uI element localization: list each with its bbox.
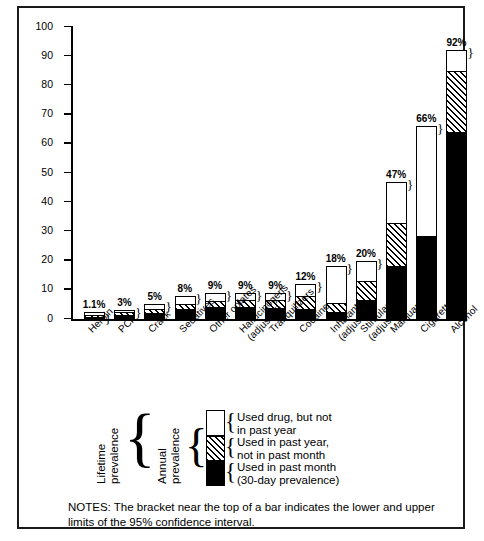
legend-item-label-1: Used in past year, not in past month [237,436,329,462]
legend-brace-3: { [225,460,236,483]
y-tick-label: 80 [27,79,53,90]
y-tick: 0 [64,318,73,320]
y-tick-label: 20 [27,254,53,265]
y-tick: 100 [64,26,73,28]
y-tick-label: 10 [27,283,53,294]
confidence-interval-bracket: } [407,178,413,191]
legend-swatch-black [206,461,225,486]
plot-area: 0102030405060708090100 1.1%}3%}5%}8%}9%}… [71,27,467,321]
legend-swatch-hatched [206,436,225,461]
chart-frame: Percentage, Class of 1988 01020304050607… [17,6,465,529]
y-tick-label: 0 [27,313,53,324]
y-tick-label: 100 [27,21,53,32]
legend-item-label-2: Used in past month (30-day prevalence) [237,461,339,487]
notes-text: NOTES: The bracket near the top of a bar… [68,500,463,530]
bar-value-label: 3% [117,298,131,308]
confidence-interval-bracket: } [347,262,353,275]
y-tick-label: 40 [27,196,53,207]
y-tick: 40 [64,201,73,203]
bar-segment-black [446,132,467,319]
bar-value-label: 66% [416,114,436,124]
y-tick: 20 [64,259,73,261]
bar-value-label: 18% [326,254,346,264]
confidence-interval-bracket: } [226,289,232,302]
y-tick: 50 [64,172,73,174]
y-tick: 60 [64,142,73,144]
bar-value-label: 5% [147,292,161,302]
y-tick: 80 [64,84,73,86]
y-tick: 90 [64,55,73,57]
y-tick: 10 [64,288,73,290]
bar-value-label: 47% [386,170,406,180]
confidence-interval-bracket: } [467,46,473,59]
y-tick-label: 30 [27,225,53,236]
confidence-interval-bracket: } [316,280,322,293]
y-tick: 30 [64,230,73,232]
legend-swatch-stack [206,410,225,486]
bar[interactable]: 66%} [416,126,437,319]
legend-brace-1: { [225,410,236,433]
bar-segment-white [386,182,407,223]
bar-segment-white [446,50,467,70]
lifetime-prevalence-label: Lifetime prevalence [95,406,120,484]
y-tick-label: 70 [27,108,53,119]
y-tick-label: 90 [27,50,53,61]
y-tick-label: 50 [27,167,53,178]
bar-segment-hatched [446,71,467,132]
bar-value-label: 1.1% [83,300,106,310]
bar-segment-white [326,266,347,303]
bar-segment-white [356,261,377,281]
bar-segment-white [175,296,196,304]
bar-value-label: 12% [295,272,315,282]
bar-value-label: 20% [356,249,376,259]
legend-swatch-white [206,410,225,436]
bar[interactable]: 92%} [446,50,467,319]
bar-value-label: 92% [446,38,466,48]
bar-segment-white [416,126,437,236]
bar-value-label: 8% [178,284,192,294]
annual-brace: { [185,422,208,469]
lifetime-brace: { [124,404,156,470]
y-axis-line [71,27,73,321]
y-tick: 70 [64,113,73,115]
legend-item-label-0: Used drug, but not in past year [237,411,332,437]
confidence-interval-bracket: } [437,122,443,135]
annual-prevalence-label: Annual prevalence [156,406,181,484]
y-tick-label: 60 [27,137,53,148]
bar-value-label: 9% [208,281,222,291]
legend-brace-2: { [225,435,236,458]
bar-segment-hatched [386,223,407,267]
confidence-interval-bracket: } [377,257,383,270]
legend: { Lifetime prevalence { Annual prevalenc… [49,408,449,488]
